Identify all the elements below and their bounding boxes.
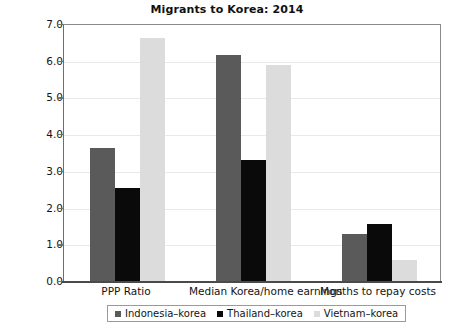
bar [140,38,165,281]
bar [392,260,417,281]
bar [367,224,392,281]
legend-swatch-icon [115,311,121,317]
y-axis-tick-label: 2.0 [11,202,63,214]
bar-chart: Migrants to Korea: 2014 0.01.02.03.04.05… [0,0,454,333]
legend-swatch-icon [314,311,320,317]
x-axis-category-label: Months to repay costs [315,285,441,297]
plot-area [63,24,441,281]
legend-item[interactable]: Thailand–korea [217,308,303,319]
x-axis-category-label: Median Korea/home earnings [189,285,315,297]
bar [216,55,241,281]
y-axis-tick-label: 3.0 [11,165,63,177]
y-axis-tick-label: 4.0 [11,128,63,140]
legend-label: Thailand–korea [227,308,303,319]
bar [342,234,367,281]
y-axis-tick-label: 5.0 [11,91,63,103]
legend-label: Vietnam–korea [324,308,398,319]
chart-title: Migrants to Korea: 2014 [0,3,454,16]
y-axis: 0.01.02.03.04.05.06.07.0 [0,0,63,333]
y-axis-tick-label: 0.0 [11,275,63,287]
legend-swatch-icon [217,311,223,317]
chart-legend: Indonesia–koreaThailand–koreaVietnam–kor… [107,305,406,322]
bar [90,148,115,281]
bar [266,65,291,281]
bar [241,160,266,281]
x-axis-line [62,281,442,283]
gridline [64,62,440,63]
bar [115,188,140,281]
gridline [64,135,440,136]
legend-label: Indonesia–korea [125,308,206,319]
x-axis-category-label: PPP Ratio [63,285,189,297]
y-axis-tick-label: 7.0 [11,18,63,30]
gridline [64,98,440,99]
legend-item[interactable]: Indonesia–korea [115,308,206,319]
y-axis-tick-label: 6.0 [11,55,63,67]
y-axis-tick-label: 1.0 [11,238,63,250]
legend-item[interactable]: Vietnam–korea [314,308,398,319]
